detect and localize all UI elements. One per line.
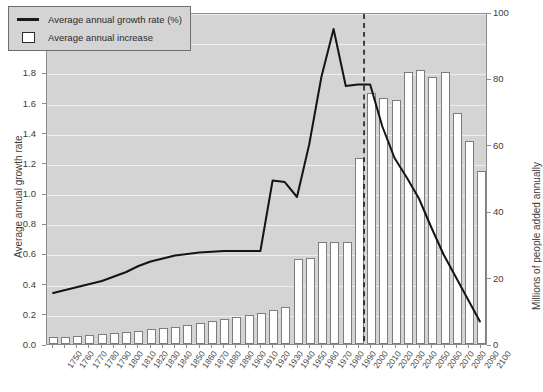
axis-tick [333,345,334,348]
axis-tick [150,345,151,348]
axis-tick [395,345,396,348]
axis-tick [382,345,383,348]
axis-tick [235,345,236,348]
axis-tick-label: 0 [493,339,519,350]
axis-tick-label: 0.6 [10,248,36,259]
axis-tick-label: 1.8 [10,67,36,78]
axis-tick [42,224,46,225]
axis-tick [42,73,46,74]
axis-tick [321,345,322,348]
plot-area [46,13,487,345]
growth-rate-line [53,29,480,321]
line-overlay [47,14,486,344]
legend-item-growth-rate: Average annual growth rate (%) [15,12,182,27]
axis-tick-label: 1.0 [10,188,36,199]
y-axis-title-right: Millions of people added annually [531,162,542,310]
axis-tick [456,345,457,348]
axis-tick [487,212,491,213]
axis-tick [487,278,491,279]
axis-tick [419,345,420,348]
axis-tick [468,345,469,348]
axis-tick-label: 60 [493,140,519,151]
axis-tick [487,145,491,146]
axis-tick [186,345,187,348]
axis-tick [101,345,102,348]
axis-tick [284,345,285,348]
axis-tick [42,254,46,255]
axis-tick [309,345,310,348]
axis-tick-label: 0.0 [10,339,36,350]
axis-tick [297,345,298,348]
axis-tick-label: 1.2 [10,158,36,169]
axis-tick [113,345,114,348]
axis-tick-label: 0.2 [10,309,36,320]
axis-tick [42,163,46,164]
axis-tick [125,345,126,348]
axis-tick [64,345,65,348]
axis-tick-label: 40 [493,206,519,217]
population-growth-chart: Average annual growth rate Millions of p… [0,0,543,392]
axis-tick-label: 1.4 [10,128,36,139]
axis-tick [370,345,371,348]
axis-tick [480,345,481,348]
axis-tick [431,345,432,348]
axis-tick [42,133,46,134]
axis-tick [248,345,249,348]
axis-tick [42,103,46,104]
axis-tick [199,345,200,348]
axis-tick [358,345,359,348]
axis-tick-label: 0.4 [10,279,36,290]
axis-tick [162,345,163,348]
axis-tick [223,345,224,348]
axis-tick [137,345,138,348]
axis-tick [42,284,46,285]
axis-tick-label: 1.6 [10,98,36,109]
axis-tick [76,345,77,348]
axis-tick [174,345,175,348]
axis-tick [487,79,491,80]
legend-line-icon [15,18,41,21]
axis-tick [487,13,491,14]
axis-tick [444,345,445,348]
axis-tick [260,345,261,348]
axis-tick-label: 100 [493,7,519,18]
legend-box-icon [15,32,41,43]
axis-tick-label: 80 [493,73,519,84]
axis-tick [346,345,347,348]
axis-tick [42,314,46,315]
axis-tick [52,345,53,348]
axis-tick [211,345,212,348]
legend-item-annual-increase: Average annual increase [15,30,182,45]
axis-tick [42,345,46,346]
axis-tick-label: 0.8 [10,218,36,229]
axis-tick-label: 20 [493,273,519,284]
axis-tick [272,345,273,348]
axis-tick [487,345,491,346]
chart-legend: Average annual growth rate (%) Average a… [8,6,191,51]
legend-label-growth-rate: Average annual growth rate (%) [48,14,182,25]
legend-label-annual-increase: Average annual increase [48,32,153,43]
axis-tick [42,194,46,195]
axis-tick [88,345,89,348]
axis-tick [407,345,408,348]
